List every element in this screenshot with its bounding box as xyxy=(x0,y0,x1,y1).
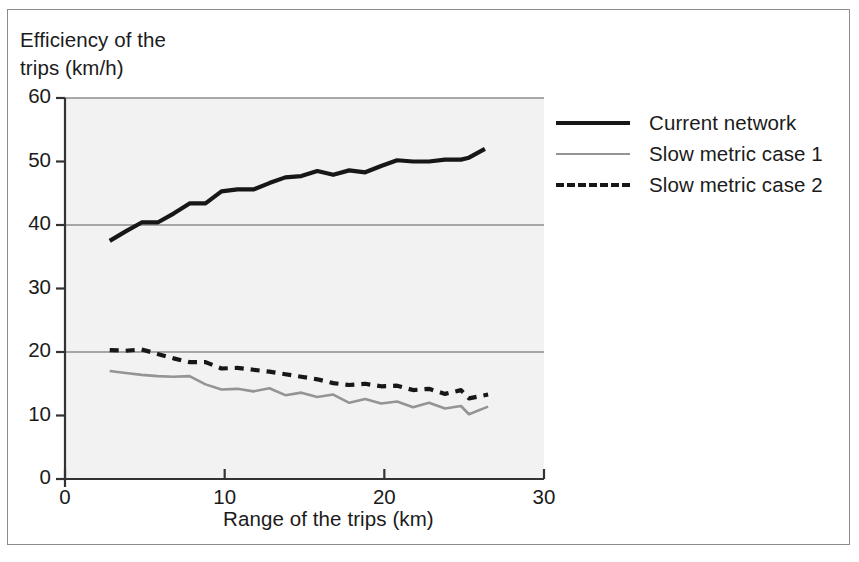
legend-item-1[interactable]: Slow metric case 1 xyxy=(556,138,823,169)
legend-label-1: Slow metric case 1 xyxy=(649,142,823,166)
x-tick-label-20: 20 xyxy=(364,485,404,509)
chart-figure-frame: Efficiency of the trips (km/h) 010203040… xyxy=(7,9,850,545)
legend-item-0[interactable]: Current network xyxy=(556,107,823,138)
y-tick-label-10: 10 xyxy=(7,402,51,426)
legend-label-0: Current network xyxy=(649,111,796,135)
x-tick-label-30: 30 xyxy=(524,485,564,509)
y-tick-label-50: 50 xyxy=(7,148,51,172)
x-tick-label-0: 0 xyxy=(45,485,85,509)
x-tick-label-10: 10 xyxy=(205,485,245,509)
x-axis-title: Range of the trips (km) xyxy=(223,507,434,531)
legend-swatch-0 xyxy=(556,116,630,130)
y-tick-label-30: 30 xyxy=(7,275,51,299)
legend-swatch-2 xyxy=(556,178,630,192)
chart-area: Efficiency of the trips (km/h) 010203040… xyxy=(8,10,851,546)
legend-label-2: Slow metric case 2 xyxy=(649,173,823,197)
y-tick-label-20: 20 xyxy=(7,338,51,362)
legend-swatch-1 xyxy=(556,147,630,161)
y-tick-label-60: 60 xyxy=(7,84,51,108)
chart-legend: Current networkSlow metric case 1Slow me… xyxy=(556,107,823,200)
legend-item-2[interactable]: Slow metric case 2 xyxy=(556,169,823,200)
y-tick-label-40: 40 xyxy=(7,211,51,235)
y-axis-title: Efficiency of the trips (km/h) xyxy=(20,26,166,82)
plot-canvas xyxy=(8,10,851,546)
